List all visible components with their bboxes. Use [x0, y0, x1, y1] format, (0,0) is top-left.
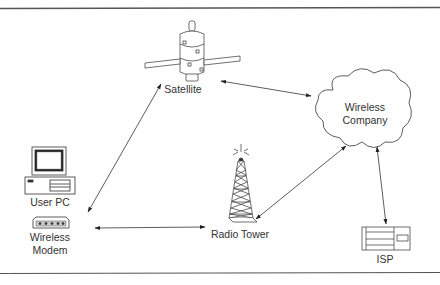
wireless-company-label: Wireless Company — [330, 101, 400, 127]
wireless-company-label-line1: Wireless — [330, 101, 400, 114]
bottom-border-line — [0, 273, 440, 274]
satellite-icon — [145, 21, 240, 81]
isp-label: ISP — [370, 253, 400, 266]
server-icon — [362, 227, 410, 250]
wireless-modem-label: Wireless Modem — [20, 231, 80, 257]
arrow-company-isp — [377, 147, 386, 224]
user-pc-label: User PC — [20, 196, 80, 209]
arrow-modem-satellite — [88, 84, 161, 212]
wireless-company-label-line2: Company — [330, 114, 400, 127]
top-border-line — [0, 8, 440, 9]
satellite-label: Satellite — [158, 83, 208, 96]
arrow-satellite-company — [221, 81, 311, 96]
radio-tower-icon — [229, 144, 257, 222]
arrow-tower-company — [256, 146, 346, 219]
modem-icon — [33, 217, 69, 228]
arrow-modem-tower — [95, 227, 205, 228]
radio-tower-label: Radio Tower — [200, 228, 280, 241]
desktop-computer-icon — [25, 147, 75, 194]
wireless-modem-label-line1: Wireless — [20, 231, 80, 244]
wireless-modem-label-line2: Modem — [20, 244, 80, 257]
